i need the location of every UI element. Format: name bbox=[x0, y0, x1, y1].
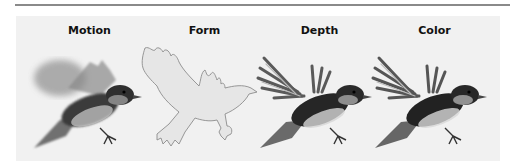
bird-form-outline bbox=[135, 40, 263, 156]
panel-label-form: Form bbox=[147, 24, 262, 37]
bird-motion-image bbox=[20, 40, 148, 156]
panel-label-color: Color bbox=[377, 24, 492, 37]
panel-label-depth: Depth bbox=[262, 24, 377, 37]
panel-motion: Motion bbox=[32, 16, 147, 161]
panel-depth: Depth bbox=[262, 16, 377, 161]
bird-color-image bbox=[365, 40, 493, 156]
panel-label-motion: Motion bbox=[32, 24, 147, 37]
top-divider-rule bbox=[15, 4, 510, 6]
panel-form: Form bbox=[147, 16, 262, 161]
bird-depth-image bbox=[250, 40, 378, 156]
panel-color: Color bbox=[377, 16, 492, 161]
